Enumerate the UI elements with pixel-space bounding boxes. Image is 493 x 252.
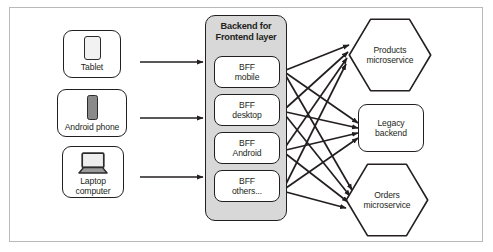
bff-box-mobile[interactable]: BFF mobile (214, 56, 280, 88)
client-box-android-phone[interactable]: Android phone (57, 89, 127, 137)
service-orders-microservice[interactable]: Orders microservice (345, 163, 429, 237)
bff-layer-title: Backend for Frontend layer (206, 21, 286, 43)
service-label-orders-microservice: Orders microservice (345, 190, 429, 210)
tablet-icon (84, 36, 101, 60)
laptop-icon (77, 152, 109, 175)
service-label-products-microservice: Products microservice (348, 45, 432, 65)
service-products-microservice[interactable]: Products microservice (348, 18, 432, 92)
service-legacy-backend[interactable]: Legacy backend (358, 104, 424, 152)
client-box-tablet[interactable]: Tablet (63, 30, 121, 78)
diagram-canvas: Tablet Android phone Laptop computer Bac… (0, 0, 493, 252)
client-box-laptop-computer[interactable]: Laptop computer (62, 146, 124, 198)
bff-box-android[interactable]: BFF Android (214, 132, 280, 164)
bff-box-desktop[interactable]: BFF desktop (214, 94, 280, 126)
client-label-android-phone: Android phone (65, 122, 120, 132)
client-label-tablet: Tablet (81, 62, 103, 72)
backend-for-frontend-layer[interactable]: Backend for Frontend layer BFF mobile BF… (205, 15, 287, 221)
client-label-laptop-computer: Laptop computer (75, 176, 110, 196)
bff-box-others[interactable]: BFF others... (214, 170, 280, 202)
smartphone-icon (87, 95, 98, 120)
